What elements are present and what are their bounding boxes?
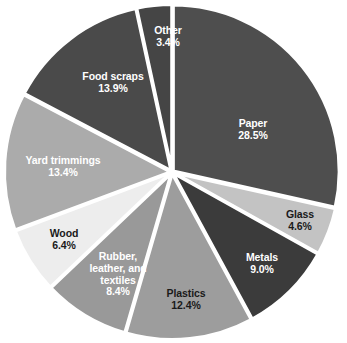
pie-chart-figure: Paper28.5%Glass4.6%Metals9.0%Plastics12.… [0,0,347,343]
pie-slice-group [4,4,339,339]
pie-chart-canvas [0,0,347,343]
